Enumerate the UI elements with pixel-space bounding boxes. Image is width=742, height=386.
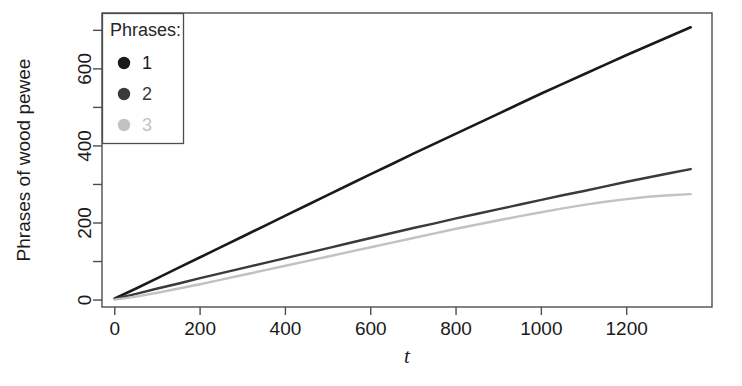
legend-label-1: 1 <box>142 53 152 73</box>
x-tick-label: 400 <box>270 318 302 339</box>
x-axis-title: t <box>404 344 411 368</box>
legend-title: Phrases: <box>110 20 181 40</box>
legend-label-2: 2 <box>142 84 152 104</box>
data-series-group <box>115 27 691 299</box>
y-tick-label: 0 <box>74 295 95 306</box>
legend-marker-1 <box>118 57 130 69</box>
series-line-2 <box>115 169 691 299</box>
y-axis-title: Phrases of wood pewee <box>13 59 34 262</box>
x-tick-label: 800 <box>440 318 472 339</box>
x-tick-label: 0 <box>110 318 121 339</box>
x-tick-label: 1000 <box>520 318 562 339</box>
x-tick-label: 200 <box>184 318 216 339</box>
chart-figure: 020040060080010001200 0200400600 Phrases… <box>0 0 742 386</box>
y-tick-label: 600 <box>74 53 95 85</box>
x-axis-tick-labels: 020040060080010001200 <box>110 318 648 339</box>
legend-marker-3 <box>118 119 130 131</box>
y-tick-label: 400 <box>74 130 95 162</box>
series-line-1 <box>115 27 691 298</box>
y-axis-tick-labels: 0200400600 <box>74 53 95 305</box>
y-tick-label: 200 <box>74 207 95 239</box>
x-tick-label: 600 <box>355 318 387 339</box>
legend: Phrases: 123 <box>103 14 184 144</box>
legend-marker-2 <box>118 88 130 100</box>
x-tick-label: 1200 <box>606 318 648 339</box>
x-axis-ticks <box>115 307 627 315</box>
series-line-3 <box>115 194 691 300</box>
line-chart-svg: 020040060080010001200 0200400600 Phrases… <box>0 0 742 386</box>
legend-label-3: 3 <box>142 115 152 135</box>
